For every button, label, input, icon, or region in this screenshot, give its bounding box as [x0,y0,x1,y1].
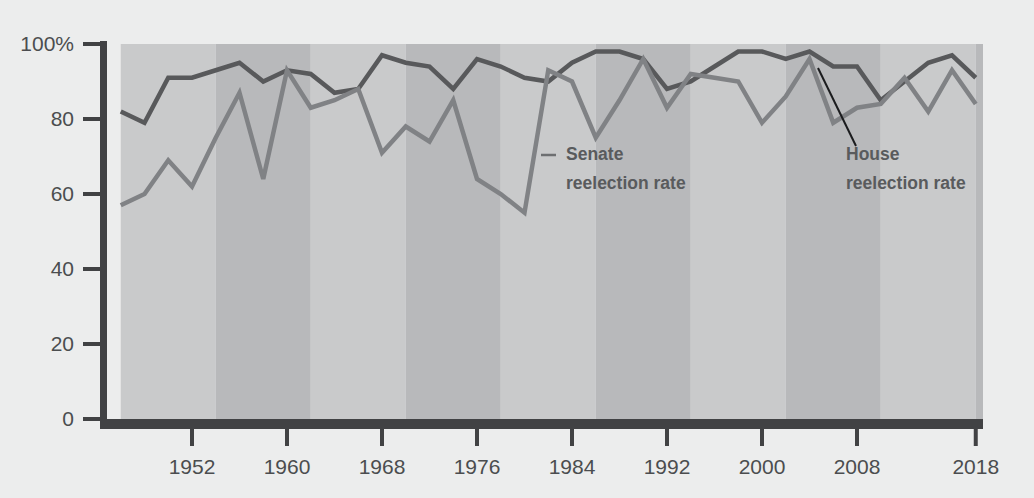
background-band [216,44,311,419]
chart-canvas: 100%806040200 19521960196819761984199220… [0,0,1034,498]
x-axis-tick-label: 1992 [644,455,691,478]
background-band [976,44,983,419]
x-axis-tick-label: 2000 [739,455,786,478]
y-axis-tick-label: 40 [51,257,74,280]
x-axis-tick-label: 1952 [169,455,216,478]
y-axis-tick-label: 100% [20,32,74,55]
x-axis-tick [380,429,384,446]
y-axis-tick [83,192,100,196]
background-band [596,44,691,419]
x-axis-line [100,419,983,429]
y-axis-tick-label: 20 [51,332,74,355]
annotation-sublabel-senate: reelection rate [566,173,686,193]
x-axis-tick-label: 1968 [359,455,406,478]
y-axis-tick [83,42,100,46]
y-axis-tick-label: 60 [51,182,74,205]
x-axis-tick [190,429,194,446]
x-axis-tick [570,429,574,446]
x-axis-tick [974,429,978,446]
x-axis-tick-label: 2008 [834,455,881,478]
x-axis-tick-label: 1984 [549,455,596,478]
background-band [311,44,406,419]
x-axis-tick [665,429,669,446]
background-band [121,44,216,419]
y-axis-line [100,41,107,426]
annotation-sublabel-house: reelection rate [846,173,966,193]
x-axis-tick [855,429,859,446]
x-axis-tick-label: 1976 [454,455,501,478]
y-axis-tick [83,417,100,421]
background-bands [121,44,983,419]
annotation-label-senate: Senate [566,144,624,164]
y-axis-tick [83,342,100,346]
y-axis-tick [83,267,100,271]
background-band [691,44,786,419]
x-axis-tick-label: 1960 [264,455,311,478]
reelection-rate-chart: 100%806040200 19521960196819761984199220… [0,0,1034,498]
y-axis-tick [83,117,100,121]
x-axis-tick-label: 2018 [952,455,999,478]
x-axis-tick [285,429,289,446]
y-axis-tick-label: 0 [62,407,74,430]
background-band [881,44,976,419]
x-axis-tick-labels: 195219601968197619841992200020082018 [169,455,999,478]
x-axis-tick [475,429,479,446]
annotation-label-house: House [846,144,900,164]
x-axis-tick [760,429,764,446]
y-axis-tick-label: 80 [51,107,74,130]
